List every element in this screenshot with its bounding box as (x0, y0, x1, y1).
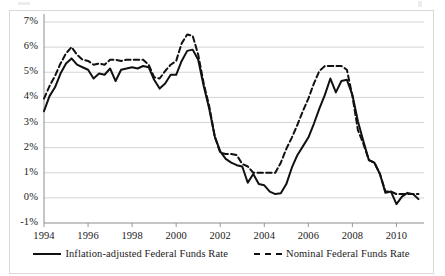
x-tick-marks-group (44, 223, 396, 227)
x-axis-tick-label: 2000 (156, 230, 196, 241)
x-axis-tick-label: 2006 (288, 230, 328, 241)
y-axis-tick-label: 4% (8, 90, 38, 101)
gridlines-group (44, 22, 424, 223)
legend-item-inflation-adjusted: Inflation-adjusted Federal Funds Rate (33, 248, 228, 259)
legend-swatch-dashed-line-icon (254, 253, 282, 255)
x-axis-tick-label: 1996 (68, 230, 108, 241)
legend-label-nominal: Nominal Federal Funds Rate (286, 248, 410, 259)
x-axis-tick-label: 2010 (376, 230, 416, 241)
x-axis-tick-label: 1994 (24, 230, 64, 241)
y-axis-tick-label: 2% (8, 141, 38, 152)
y-axis-tick-label: 5% (8, 65, 38, 76)
chart-page: 7%6%5%4%3%2%1%0%-1% 19941996199820002002… (0, 0, 445, 276)
legend-label-inflation-adjusted: Inflation-adjusted Federal Funds Rate (65, 248, 228, 259)
y-axis-tick-label: 6% (8, 40, 38, 51)
x-axis-tick-label: 2008 (332, 230, 372, 241)
y-axis-tick-label: 0% (8, 191, 38, 202)
x-axis-tick-label: 2004 (244, 230, 284, 241)
chart-legend: Inflation-adjusted Federal Funds Rate No… (9, 248, 434, 259)
x-axis-tick-label: 1998 (112, 230, 152, 241)
legend-item-nominal: Nominal Federal Funds Rate (254, 248, 410, 259)
legend-swatch-solid-line-icon (33, 253, 61, 255)
x-axis-tick-label: 2002 (200, 230, 240, 241)
series-line-inflation-adjusted (44, 50, 418, 205)
data-series-group (44, 35, 418, 205)
series-line-nominal (44, 35, 418, 195)
y-axis-tick-label: 7% (8, 15, 38, 26)
y-axis-tick-label: 1% (8, 166, 38, 177)
y-axis-tick-label: 3% (8, 116, 38, 127)
y-axis-tick-label: -1% (8, 216, 38, 227)
